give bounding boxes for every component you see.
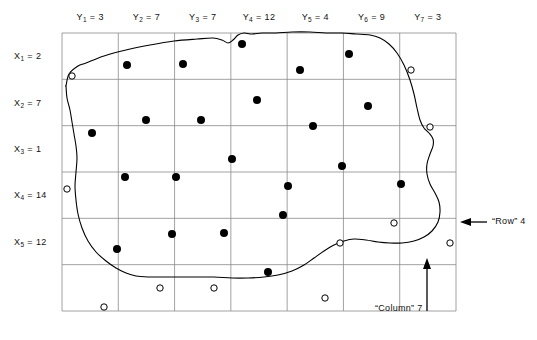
row-header-1: X1 = 2 [14, 51, 41, 61]
row-header-equals: = [27, 144, 33, 154]
column-header-7: Y7 = 3 [414, 12, 441, 22]
data-point-open [337, 240, 343, 246]
data-point-filled [121, 173, 129, 181]
region-outline-path [66, 32, 440, 278]
row-arrow-icon [460, 218, 487, 226]
row-header-3: X3 = 1 [14, 144, 41, 154]
data-point-filled [253, 96, 261, 104]
row-header-value: 12 [36, 237, 47, 247]
row-header-equals: = [27, 51, 33, 61]
column-header-equals: = [146, 12, 152, 22]
row-header-5: X5 = 12 [14, 237, 47, 247]
row-header-value: 7 [36, 98, 41, 108]
column-header-equals: = [256, 12, 262, 22]
row-header-equals: = [27, 98, 33, 108]
data-point-filled [279, 211, 287, 219]
row-header-symbol: X2 [14, 98, 24, 108]
data-point-filled [228, 155, 236, 163]
figure-container: Y1 = 3Y2 = 7Y3 = 7Y4 = 12Y5 = 4Y6 = 9Y7 … [0, 0, 537, 340]
row-header-2: X2 = 7 [14, 98, 41, 108]
data-point-filled [238, 40, 246, 48]
data-point-open [211, 285, 217, 291]
data-point-open [69, 73, 75, 79]
inside-points-group [88, 40, 405, 276]
data-point-open [157, 285, 163, 291]
row-header-value: 14 [36, 190, 47, 200]
grid-lines [62, 33, 456, 311]
column-annotation-label: “Column” 7 [375, 303, 423, 313]
column-header-symbol: Y1 [76, 12, 86, 22]
column-header-3: Y3 = 7 [189, 12, 216, 22]
data-point-filled [309, 122, 317, 130]
column-header-equals: = [202, 12, 208, 22]
data-point-filled [142, 116, 150, 124]
column-header-4: Y4 = 12 [243, 12, 276, 22]
row-header-4: X4 = 14 [14, 190, 47, 200]
row-header-value: 1 [36, 144, 41, 154]
data-point-filled [338, 162, 346, 170]
column-header-symbol: Y6 [358, 12, 368, 22]
column-header-2: Y2 = 7 [133, 12, 160, 22]
data-point-open [64, 186, 70, 192]
data-point-filled [345, 50, 353, 58]
data-point-filled [197, 116, 205, 124]
data-point-filled [364, 102, 372, 110]
column-header-value: 3 [98, 12, 103, 22]
data-point-filled [284, 182, 292, 190]
column-header-symbol: Y2 [133, 12, 143, 22]
column-header-1: Y1 = 3 [76, 12, 103, 22]
column-header-value: 9 [380, 12, 385, 22]
column-header-value: 3 [436, 12, 441, 22]
row-header-symbol: X4 [14, 190, 24, 200]
data-point-filled [220, 229, 228, 237]
row-header-symbol: X1 [14, 51, 24, 61]
column-header-6: Y6 = 9 [358, 12, 385, 22]
data-point-filled [113, 245, 121, 253]
column-header-equals: = [90, 12, 96, 22]
data-point-filled [296, 66, 304, 74]
data-point-open [391, 220, 397, 226]
data-point-filled [179, 60, 187, 68]
row-header-equals: = [27, 190, 33, 200]
row-header-equals: = [27, 237, 33, 247]
data-point-filled [172, 173, 180, 181]
data-point-filled [397, 180, 405, 188]
column-header-symbol: Y7 [414, 12, 424, 22]
column-header-equals: = [428, 12, 434, 22]
data-point-open [447, 240, 453, 246]
data-point-filled [168, 230, 176, 238]
data-point-filled [123, 61, 131, 69]
row-annotation-label: “Row” 4 [492, 216, 526, 226]
data-point-open [101, 304, 107, 310]
column-header-value: 12 [265, 12, 276, 22]
column-arrow-icon [423, 258, 431, 311]
column-header-5: Y5 = 4 [302, 12, 329, 22]
column-header-value: 4 [324, 12, 329, 22]
column-header-symbol: Y4 [243, 12, 253, 22]
column-header-equals: = [371, 12, 377, 22]
column-header-equals: = [315, 12, 321, 22]
data-point-filled [88, 129, 96, 137]
row-header-symbol: X5 [14, 237, 24, 247]
figure-canvas [0, 0, 537, 340]
row-header-symbol: X3 [14, 144, 24, 154]
data-point-open [322, 295, 328, 301]
data-point-open [408, 67, 414, 73]
data-point-filled [264, 268, 272, 276]
row-header-value: 2 [36, 51, 41, 61]
column-header-symbol: Y3 [189, 12, 199, 22]
column-header-value: 7 [211, 12, 216, 22]
data-point-open [427, 124, 433, 130]
column-header-symbol: Y5 [302, 12, 312, 22]
column-header-value: 7 [155, 12, 160, 22]
